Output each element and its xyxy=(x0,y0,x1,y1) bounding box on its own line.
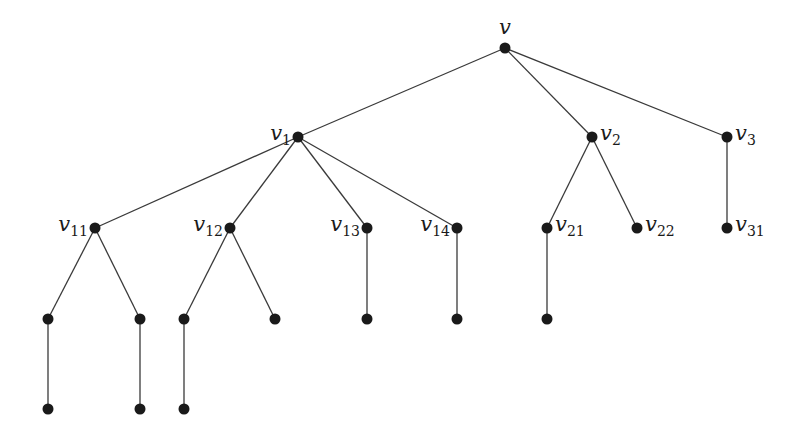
node-v1 xyxy=(293,132,304,143)
node-a2 xyxy=(135,314,146,325)
node-b3 xyxy=(179,404,190,415)
node-v22 xyxy=(632,223,643,234)
node-v12 xyxy=(225,223,236,234)
node-v14 xyxy=(452,223,463,234)
edge-v11-a1 xyxy=(48,228,95,319)
edge-v-v1 xyxy=(298,48,505,137)
node-a4 xyxy=(270,314,281,325)
node-a5 xyxy=(362,314,373,325)
node-v11 xyxy=(90,223,101,234)
edge-v-v3 xyxy=(505,48,727,137)
edge-v1-v12 xyxy=(230,137,298,228)
node-a7 xyxy=(542,314,553,325)
node-a3 xyxy=(179,314,190,325)
label-v11: v11 xyxy=(58,212,88,239)
tree-labels: vv1v2v3v11v12v13v14v21v22v31 xyxy=(58,15,764,239)
label-v1: v1 xyxy=(270,121,291,148)
edge-v2-v21 xyxy=(547,137,592,228)
node-v2 xyxy=(587,132,598,143)
edge-v2-v22 xyxy=(592,137,637,228)
label-v21: v21 xyxy=(555,212,585,239)
node-a1 xyxy=(43,314,54,325)
node-b1 xyxy=(43,404,54,415)
label-v13: v13 xyxy=(330,212,360,239)
edge-v-v2 xyxy=(505,48,592,137)
node-v31 xyxy=(722,223,733,234)
edge-v1-v14 xyxy=(298,137,457,228)
tree-diagram: vv1v2v3v11v12v13v14v21v22v31 xyxy=(0,0,793,439)
edge-v11-a2 xyxy=(95,228,140,319)
node-v21 xyxy=(542,223,553,234)
label-v2: v2 xyxy=(600,121,621,148)
node-a6 xyxy=(452,314,463,325)
node-v13 xyxy=(362,223,373,234)
label-v12: v12 xyxy=(193,212,223,239)
node-b2 xyxy=(135,404,146,415)
label-v22: v22 xyxy=(645,212,675,239)
node-v xyxy=(500,43,511,54)
edge-v12-a3 xyxy=(184,228,230,319)
node-v3 xyxy=(722,132,733,143)
tree-edges xyxy=(48,48,727,409)
label-v: v xyxy=(499,15,511,39)
label-v31: v31 xyxy=(735,212,765,239)
label-v3: v3 xyxy=(735,121,756,148)
edge-v12-a4 xyxy=(230,228,275,319)
